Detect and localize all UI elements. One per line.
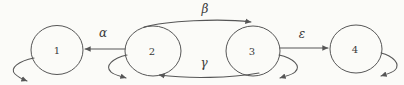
transition-epsilon-label: ε — [299, 27, 305, 41]
state-3-label: 3 — [249, 46, 255, 57]
state-diagram-canvas: 1 2 3 4 α β γ ε — [0, 0, 404, 85]
transition-gamma-label: γ — [200, 56, 208, 70]
state-2-self-loop — [109, 55, 127, 78]
state-2-label: 2 — [149, 46, 155, 57]
transition-alpha-label: α — [99, 26, 107, 40]
state-4-label: 4 — [352, 44, 358, 55]
state-3-self-loop — [279, 55, 297, 78]
state-4-self-loop — [381, 53, 397, 76]
state-1-label: 1 — [54, 45, 60, 56]
transition-beta-path — [144, 20, 251, 27]
state-diagram: 1 2 3 4 α β γ ε — [0, 0, 404, 85]
transition-beta-label: β — [201, 2, 209, 16]
state-1-self-loop — [13, 58, 34, 81]
transition-gamma-path — [159, 73, 259, 77]
